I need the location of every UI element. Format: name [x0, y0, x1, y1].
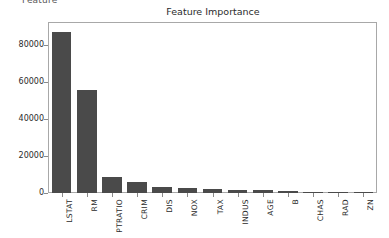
y-axis-tick-mark	[44, 119, 48, 120]
x-axis-tick-mark	[313, 193, 314, 197]
x-axis-tick-label-wrap: RAD	[338, 199, 348, 238]
chart-title: Feature Importance	[48, 6, 378, 17]
x-axis-tick-label-wrap: ZN	[363, 199, 373, 238]
x-axis-tick-label: RAD	[341, 199, 350, 216]
x-axis-tick-label: ZN	[366, 199, 375, 210]
x-axis-tick-label: CRIM	[140, 199, 149, 220]
y-axis-tick-label: 20000	[4, 152, 44, 160]
x-axis-tick-label-wrap: NOX	[187, 199, 197, 238]
y-axis-tick-mark	[44, 156, 48, 157]
y-axis-tick-labels: 020000400006000080000	[0, 0, 44, 238]
y-axis-tick-label: 60000	[4, 78, 44, 86]
y-axis-tick-mark	[44, 45, 48, 46]
x-axis-tick-mark	[112, 193, 113, 197]
x-axis-tick-label-wrap: CHAS	[313, 199, 323, 238]
x-axis-tick-label-wrap: RM	[87, 199, 97, 238]
bar	[127, 182, 147, 193]
x-axis-tick-label: DIS	[165, 199, 174, 213]
y-axis-tick-mark	[44, 82, 48, 83]
y-axis-tick-label: 40000	[4, 115, 44, 123]
bar	[52, 32, 72, 193]
y-axis-tick-mark	[44, 193, 48, 194]
bar	[102, 177, 122, 193]
x-axis-tick-mark	[137, 193, 138, 197]
x-axis-tick-mark	[213, 193, 214, 197]
x-axis-tick-label: AGE	[266, 199, 275, 216]
x-axis-tick-label-wrap: AGE	[263, 199, 273, 238]
x-axis-tick-mark	[187, 193, 188, 197]
x-axis-tick-mark	[263, 193, 264, 197]
x-axis-tick-label-wrap: TAX	[213, 199, 223, 238]
x-axis-tick-label-wrap: DIS	[162, 199, 172, 238]
x-axis-tick-mark	[288, 193, 289, 197]
x-axis-tick-label: LSTAT	[65, 199, 74, 223]
x-axis-tick-label-wrap: LSTAT	[62, 199, 72, 238]
x-axis-tick-label: RM	[90, 199, 99, 211]
y-axis-tick-label: 0	[4, 189, 44, 197]
x-axis-tick-label: TAX	[216, 199, 225, 214]
x-axis-tick-label-wrap: CRIM	[137, 199, 147, 238]
x-axis-tick-label: NOX	[190, 199, 199, 216]
bar	[77, 90, 97, 193]
x-axis-tick-mark	[62, 193, 63, 197]
x-axis-tick-label: INDUS	[241, 199, 250, 225]
x-axis-tick-label-wrap: PTRATIO	[112, 199, 122, 238]
x-axis-tick-mark	[338, 193, 339, 197]
plot-area	[49, 23, 376, 193]
x-axis-tick-label: PTRATIO	[115, 199, 124, 233]
x-axis-tick-label-wrap: B	[288, 199, 298, 238]
x-axis-tick-label: B	[291, 199, 300, 205]
x-axis-tick-mark	[238, 193, 239, 197]
x-axis-tick-label-wrap: INDUS	[238, 199, 248, 238]
x-axis-tick-mark	[363, 193, 364, 197]
x-axis-tick-mark	[162, 193, 163, 197]
x-axis-tick-mark	[87, 193, 88, 197]
y-axis-tick-label: 80000	[4, 41, 44, 49]
chart-figure: Feature Feature Importance 0200004000060…	[0, 0, 389, 238]
x-axis-tick-label: CHAS	[316, 199, 325, 221]
